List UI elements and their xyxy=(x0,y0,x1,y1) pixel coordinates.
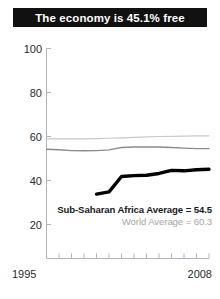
x-tick-label-start: 1995 xyxy=(12,268,36,280)
x-axis-labels: 1995 2008 xyxy=(0,268,220,288)
legend-item-subsaharan-average: Sub-Saharan Africa Average = 54.5 xyxy=(48,204,212,215)
legend-item-world-average: World Average = 60.3 xyxy=(48,216,212,227)
chart-legend: Sub-Saharan Africa Average = 54.5 World … xyxy=(48,204,212,227)
series-line-country xyxy=(97,169,210,194)
plot-svg xyxy=(0,32,220,282)
page-title: The economy is 45.1% free xyxy=(35,12,185,24)
series-line-subsaharan-average xyxy=(47,147,210,151)
chart-container: The economy is 45.1% free 100 80 60 40 2… xyxy=(0,0,220,299)
x-tick-marks xyxy=(47,254,210,259)
x-tick-label-end: 2008 xyxy=(188,268,212,280)
chart-title-banner: The economy is 45.1% free xyxy=(13,8,207,27)
series-line-world-average xyxy=(47,136,210,139)
plot-area xyxy=(0,32,220,282)
y-tick-marks xyxy=(47,49,52,225)
